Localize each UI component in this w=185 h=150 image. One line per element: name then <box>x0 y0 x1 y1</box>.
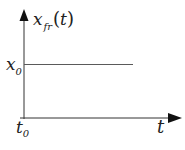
y-axis-arrowhead-icon <box>20 9 29 21</box>
level-label: x0 <box>6 54 23 77</box>
origin-label: t0 <box>16 117 30 139</box>
x-axis-arrowhead-icon <box>168 113 182 123</box>
diagram-canvas: xfr(t) x0 t0 t <box>0 0 185 150</box>
x-axis-label: t <box>157 116 165 137</box>
y-axis-label: xfr(t) <box>33 8 74 32</box>
